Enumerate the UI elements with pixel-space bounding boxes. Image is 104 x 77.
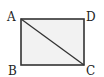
vertex-label-d: D bbox=[86, 10, 96, 24]
vertex-label-b: B bbox=[8, 64, 17, 77]
vertex-label-a: A bbox=[6, 10, 16, 24]
vertex-label-c: C bbox=[86, 64, 95, 77]
rectangle-diagram: A D B C bbox=[0, 0, 104, 77]
